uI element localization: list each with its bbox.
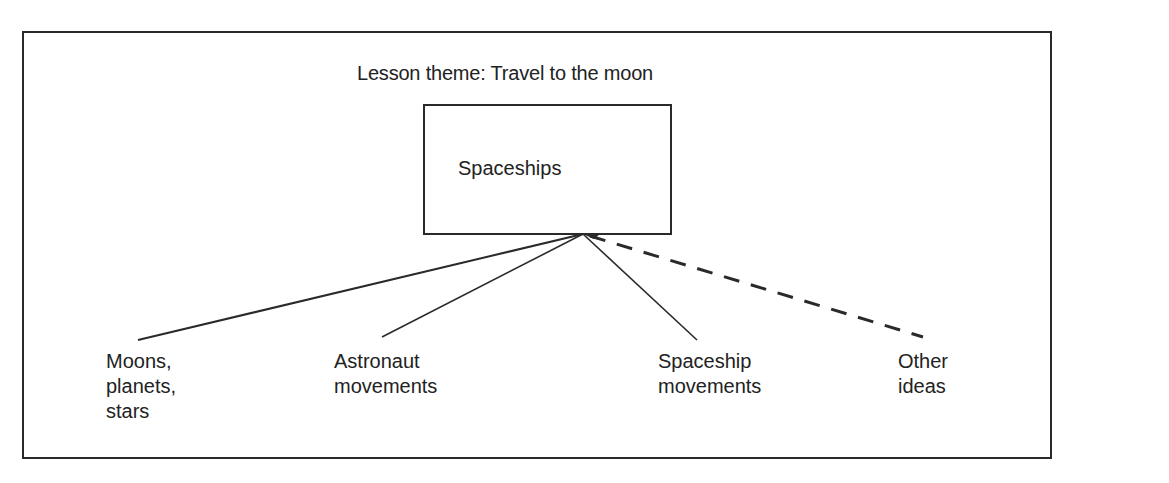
connector-spaceship: [583, 234, 697, 340]
branch-moons-planets-stars: Moons, planets, stars: [106, 349, 176, 424]
branch-other-ideas: Other ideas: [898, 349, 948, 399]
branch-astronaut-movements: Astronaut movements: [334, 349, 437, 399]
branch-spaceship-movements: Spaceship movements: [658, 349, 761, 399]
connector-astronaut: [382, 234, 583, 337]
connector-moons: [138, 234, 583, 340]
